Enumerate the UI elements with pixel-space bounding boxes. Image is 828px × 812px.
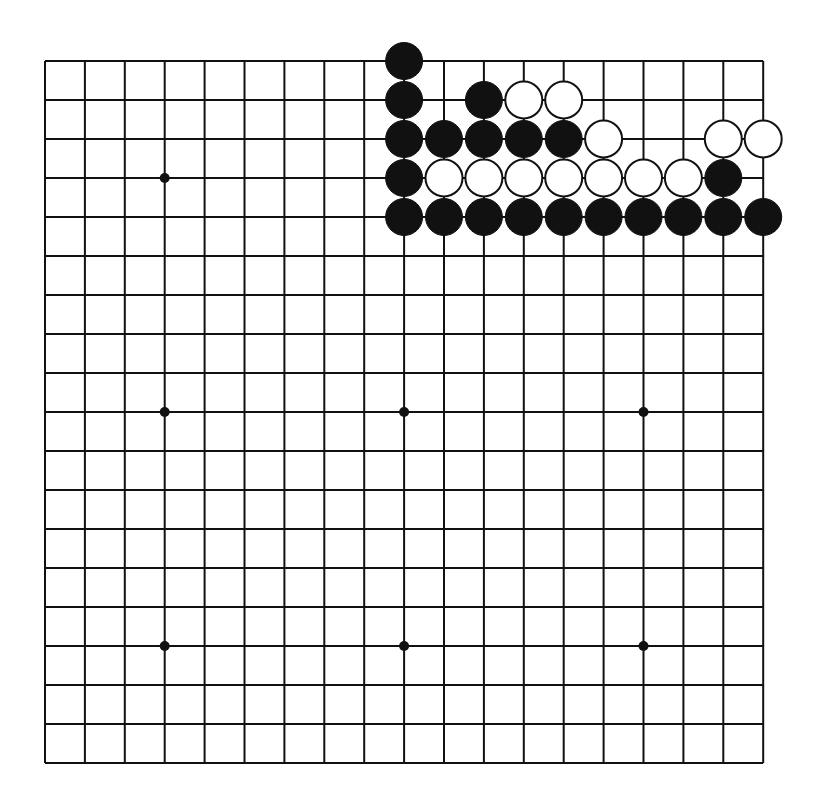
- black-stone: [585, 199, 622, 236]
- black-stone: [465, 199, 502, 236]
- black-stone: [705, 199, 742, 236]
- black-stone: [625, 199, 662, 236]
- black-stone: [426, 121, 463, 158]
- white-stone: [705, 121, 742, 158]
- white-stone: [505, 160, 542, 197]
- black-stone: [545, 199, 582, 236]
- star-point: [399, 407, 409, 417]
- white-stone: [625, 160, 662, 197]
- black-stone: [386, 160, 423, 197]
- star-point: [399, 641, 409, 651]
- white-stone: [465, 160, 502, 197]
- white-stone: [505, 82, 542, 119]
- white-stone: [585, 121, 622, 158]
- black-stone: [465, 82, 502, 119]
- go-board: [0, 0, 828, 812]
- star-point: [160, 173, 170, 183]
- white-stone: [545, 82, 582, 119]
- black-stone: [705, 160, 742, 197]
- white-stone: [585, 160, 622, 197]
- black-stone: [665, 199, 702, 236]
- black-stone: [386, 43, 423, 80]
- black-stone: [745, 199, 782, 236]
- black-stone: [465, 121, 502, 158]
- star-point: [639, 641, 649, 651]
- black-stone: [386, 121, 423, 158]
- star-point: [639, 407, 649, 417]
- black-stone: [505, 199, 542, 236]
- black-stone: [545, 121, 582, 158]
- star-point: [160, 641, 170, 651]
- black-stone: [386, 82, 423, 119]
- white-stone: [426, 160, 463, 197]
- black-stone: [386, 199, 423, 236]
- white-stone: [745, 121, 782, 158]
- white-stone: [545, 160, 582, 197]
- star-point: [160, 407, 170, 417]
- black-stone: [426, 199, 463, 236]
- white-stone: [665, 160, 702, 197]
- black-stone: [505, 121, 542, 158]
